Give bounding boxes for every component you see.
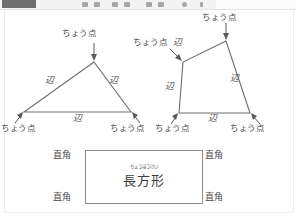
rectangle-furigana: ちょうほうけい <box>86 163 202 169</box>
quad-side-label-bottom: 辺 <box>208 114 217 123</box>
worksheet-canvas: ちょう点 ちょう点 ちょう点 辺 辺 辺 ちょう点 ちょう点 ちょう点 ちょう点… <box>4 10 294 212</box>
tool-icon-6[interactable] <box>158 2 164 7</box>
quad-vertex-arrow-top-head <box>223 33 229 40</box>
tool-icon-8[interactable] <box>200 2 203 7</box>
quad-side-label-top-left: 辺 <box>173 38 182 47</box>
quad-vertex-label-bottom-right: ちょう点 <box>230 124 265 133</box>
toolbar <box>0 0 296 10</box>
tool-icon-4[interactable] <box>124 2 130 7</box>
quadrilateral-shape <box>179 41 250 113</box>
quad-vertex-arrow-bl-head <box>172 113 178 120</box>
tool-icon-1[interactable] <box>82 2 88 7</box>
quad-vertex-label-upper-left: ちょう点 <box>133 38 168 47</box>
tool-icon-2[interactable] <box>94 2 100 7</box>
toolbar-empty-area <box>216 0 296 9</box>
quad-vertex-label-bottom-left: ちょう点 <box>155 124 190 133</box>
tool-icon-5[interactable] <box>146 2 152 7</box>
tool-icon-3[interactable] <box>112 2 118 7</box>
quad-vertex-label-top: ちょう点 <box>202 13 237 22</box>
rectangle-shape: ちょうほうけい 長方形 <box>85 150 203 204</box>
rectangle-kanji: 長方形 <box>86 170 202 189</box>
page-bottom-divider <box>4 212 292 213</box>
menu-button[interactable] <box>2 0 36 8</box>
rectangle-right-angle-label-bottom-right: 直角 <box>205 193 222 202</box>
quad-side-label-right: 辺 <box>230 74 239 83</box>
quad-side-label-left: 辺 <box>165 82 174 91</box>
rectangle-right-angle-label-bottom-left: 直角 <box>53 193 70 202</box>
rectangle-right-angle-label-top-left: 直角 <box>53 151 70 160</box>
rectangle-right-angle-label-top-right: 直角 <box>205 151 222 160</box>
tool-icon-7[interactable] <box>182 2 187 7</box>
rectangle-name: ちょうほうけい 長方形 <box>86 163 202 189</box>
